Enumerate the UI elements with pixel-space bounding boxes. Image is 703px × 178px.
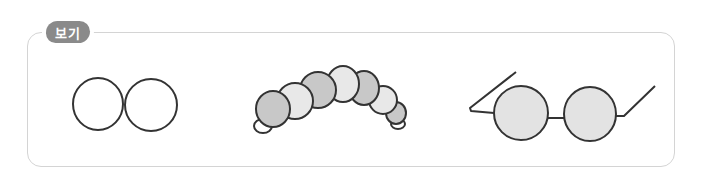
right-arm (616, 86, 655, 116)
glasses-figure (470, 72, 655, 141)
right-lens (564, 87, 616, 141)
left-lens (494, 86, 548, 140)
segment-1 (256, 91, 290, 127)
two-circles-figure (73, 78, 177, 131)
caterpillar-figure (254, 66, 406, 133)
left-circle (73, 78, 123, 130)
right-circle (125, 79, 177, 131)
figures-canvas (0, 0, 703, 178)
